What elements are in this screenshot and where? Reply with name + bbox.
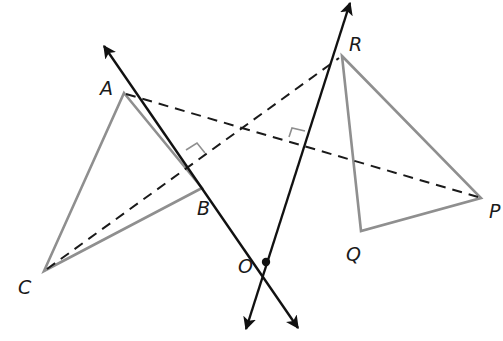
label-c: C — [18, 276, 32, 298]
right-angle-mark-2 — [289, 128, 305, 137]
label-p: P — [489, 200, 501, 222]
label-q: Q — [346, 243, 361, 265]
triangle-abc — [44, 93, 202, 271]
label-o: O — [238, 255, 253, 277]
center-point-o — [262, 258, 270, 266]
label-b: B — [197, 197, 210, 219]
bisector-line-ap — [104, 46, 298, 328]
dashed-segment-cr — [47, 58, 339, 269]
label-r: R — [349, 33, 362, 55]
bisector-line-cr — [246, 3, 350, 329]
dashed-segment-ap — [126, 94, 478, 197]
right-angle-mark-1 — [186, 143, 205, 153]
diagram-canvas: A B C R P Q O — [0, 0, 503, 341]
label-a: A — [98, 77, 113, 99]
geometry-diagram: A B C R P Q O — [0, 0, 503, 341]
triangle-rpq — [342, 56, 481, 231]
